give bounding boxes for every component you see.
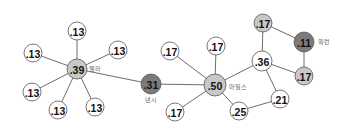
node-n_e1: .13	[68, 22, 86, 40]
node-value: .50	[208, 80, 223, 92]
node-n_e5: .13	[49, 101, 67, 119]
node-value: .17	[297, 71, 312, 83]
node-n_m2: .17	[207, 37, 225, 55]
network-diagram: .39엘라.13.13.13.13.13.13.31낸시.50마일스.17.17…	[0, 0, 347, 132]
node-value: .13	[26, 48, 41, 60]
node-n_r17: .17	[295, 67, 313, 85]
node-value: .13	[70, 26, 85, 38]
node-n_e2: .13	[24, 44, 42, 62]
node-name-label: 마일스	[229, 83, 247, 91]
node-value: .11	[297, 37, 311, 49]
node-value: .25	[232, 106, 247, 118]
node-name-label: 워런	[318, 38, 330, 46]
node-value: .21	[273, 94, 288, 106]
node-n_nancy: .31낸시	[141, 74, 161, 103]
node-n_m1: .17	[161, 42, 179, 60]
node-value: .17	[209, 41, 224, 53]
node-n_ella: .39엘라	[67, 59, 101, 79]
node-value: .17	[163, 46, 178, 58]
node-name-label: 낸시	[145, 96, 157, 103]
node-value: .13	[88, 102, 103, 114]
node-value: .13	[111, 45, 126, 57]
node-n_e6: .13	[86, 98, 104, 116]
node-n_21: .21	[271, 90, 289, 108]
node-value: .39	[70, 64, 85, 76]
node-value: .17	[168, 107, 183, 119]
node-value: .17	[256, 18, 271, 30]
node-n_36: .36	[252, 51, 272, 71]
node-name-label: 엘라	[89, 65, 101, 73]
node-n_warren: .11워런	[294, 32, 330, 52]
node-n_miles: .50마일스	[204, 74, 247, 96]
node-n_t17: .17	[254, 14, 272, 32]
node-value: .36	[255, 56, 270, 68]
node-n_e3: .13	[109, 41, 127, 59]
nodes-layer: .39엘라.13.13.13.13.13.13.31낸시.50마일스.17.17…	[23, 14, 330, 121]
node-n_m3: .17	[166, 103, 184, 121]
node-value: .31	[144, 79, 159, 91]
node-n_25: .25	[230, 102, 248, 120]
node-value: .13	[51, 105, 66, 117]
node-value: .13	[25, 87, 40, 99]
node-n_e4: .13	[23, 83, 41, 101]
